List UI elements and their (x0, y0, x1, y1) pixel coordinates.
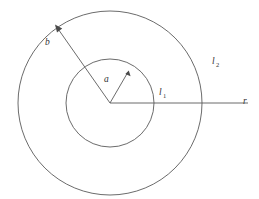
label-outer-region-l2: l 2 (212, 56, 219, 68)
label-radial-axis-r: r (243, 96, 247, 106)
label-inner-region-symbol: l (159, 87, 162, 97)
radius-vector-b (55, 25, 110, 103)
label-inner-radius-a: a (104, 74, 109, 84)
figure-canvas: a b l 1 l 2 r (0, 0, 259, 199)
label-outer-radius-b: b (45, 37, 50, 47)
label-inner-region-subscript: 1 (163, 92, 166, 99)
radius-b-arrowhead (55, 25, 62, 33)
radius-a-shaft (110, 72, 128, 103)
radius-vector-a (110, 70, 131, 103)
label-inner-region-l1: l 1 (159, 87, 166, 99)
concentric-circles-diagram: a b l 1 l 2 r (0, 0, 259, 199)
radius-b-shaft (56, 26, 110, 103)
label-outer-region-symbol: l (212, 56, 215, 66)
label-outer-region-subscript: 2 (216, 61, 219, 68)
